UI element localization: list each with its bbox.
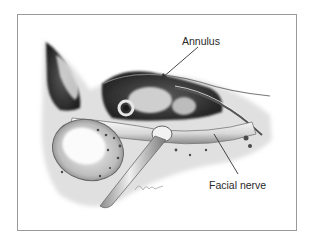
label-facial-nerve: Facial nerve	[209, 180, 266, 191]
label-annulus: Annulus	[182, 36, 220, 47]
surgical-illustration	[0, 0, 313, 245]
annulus-arrow	[160, 47, 198, 80]
